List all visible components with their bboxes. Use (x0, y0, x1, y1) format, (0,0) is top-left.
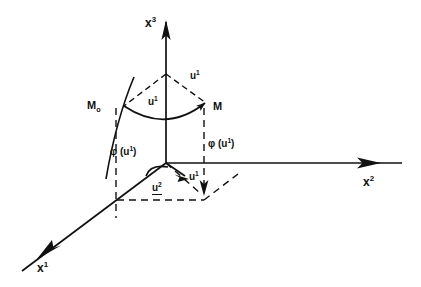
label-phi-left: φ (u1) (110, 147, 136, 157)
point-label-m0: Mo (87, 100, 101, 111)
label-u1-drop: u1 (189, 172, 199, 182)
axis-label-x3: x3 (145, 17, 156, 29)
cone-rotation-diagram: x3 x2 x1 Mo M u1 u1 u1 u2 φ (u1) φ (u1) (0, 0, 421, 287)
axis-x3 (161, 20, 170, 163)
axis-label-x1: x1 (37, 262, 48, 274)
label-u1-cone-interior: u1 (148, 97, 158, 107)
base-parallelogram (117, 163, 238, 200)
axis-x1 (22, 163, 166, 271)
axis-x1-arrowhead (37, 240, 62, 260)
base-edge-right (204, 174, 238, 200)
axis-label-x2: x2 (363, 176, 374, 188)
radius-vector-line (166, 163, 185, 176)
label-u1-generator: u1 (190, 71, 200, 81)
cone-base-arc (124, 103, 205, 119)
label-u2-base: u2 (152, 183, 162, 195)
meridian-through-m0 (106, 77, 134, 179)
label-phi-right: φ (u1) (208, 139, 234, 149)
meridian-curve (106, 77, 134, 179)
point-label-m: M (213, 101, 222, 112)
generator-to-m (166, 74, 206, 103)
generator-to-m0 (124, 74, 166, 106)
drop-line-m (200, 108, 209, 196)
rotation-arc (124, 103, 205, 119)
axis-x2 (166, 158, 402, 169)
